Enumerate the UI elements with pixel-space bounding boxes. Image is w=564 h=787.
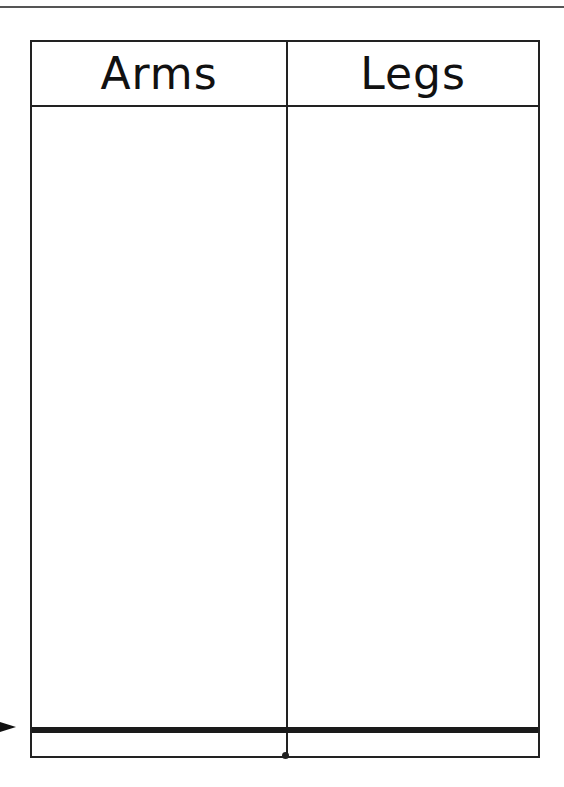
header-row: Arms Legs [32, 42, 538, 107]
column-header-legs: Legs [288, 42, 538, 105]
legs-total-cell[interactable] [288, 733, 538, 756]
top-rule-divider [0, 6, 564, 8]
arms-total-cell[interactable] [32, 733, 286, 756]
column-header-arms: Arms [32, 42, 286, 105]
column-divider [286, 42, 288, 756]
arrow-right-icon [0, 722, 16, 732]
divider-end-dot [282, 752, 289, 759]
t-chart-table: Arms Legs [30, 40, 540, 758]
arms-column-area[interactable] [32, 107, 286, 727]
legs-column-area[interactable] [288, 107, 538, 727]
